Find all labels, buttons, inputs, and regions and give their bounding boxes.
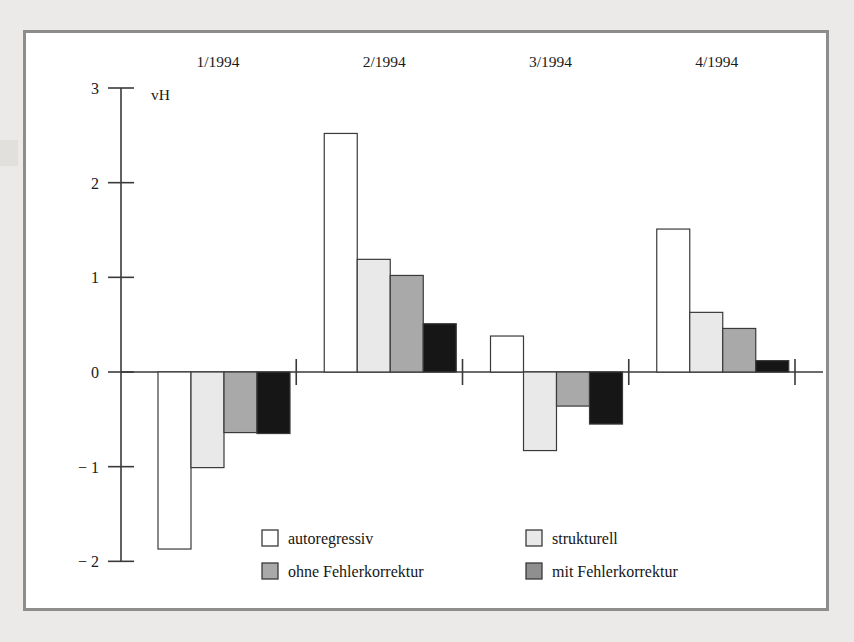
legend-label-4: mit Fehlerkorrektur xyxy=(552,563,678,580)
bar-4-1994-series3 xyxy=(723,328,756,372)
legend-swatch-autoregressiv xyxy=(262,530,278,546)
category-label-1: 1/1994 xyxy=(196,53,239,70)
bar-3-1994-series3 xyxy=(557,372,590,406)
bar-1-1994-series1 xyxy=(158,372,191,549)
legend-label-3: ohne Fehlerkorrektur xyxy=(288,563,424,580)
bar-1-1994-series2 xyxy=(191,372,224,468)
y-tick-label-3: 3 xyxy=(91,80,99,97)
y-tick-label-neg2: − 2 xyxy=(78,553,99,570)
scanned-page: 1/19942/19943/19944/19943210− 1− 2vHauto… xyxy=(0,0,854,642)
bar-2-1994-series2 xyxy=(357,259,390,372)
legend-swatch-ohne-fehlerkorrektur xyxy=(262,563,278,579)
bar-2-1994-series1 xyxy=(324,133,357,372)
legend-label-1: autoregressiv xyxy=(288,530,373,548)
bar-3-1994-series4 xyxy=(590,372,623,424)
chart-plot-area: 1/19942/19943/19944/19943210− 1− 2vHauto… xyxy=(26,33,826,608)
bar-4-1994-series4 xyxy=(756,361,789,372)
y-tick-label-1: 1 xyxy=(91,269,99,286)
bar-3-1994-series2 xyxy=(524,372,557,451)
legend-swatch-strukturell xyxy=(526,530,542,546)
bar-1-1994-series4 xyxy=(257,372,290,434)
category-label-3: 3/1994 xyxy=(529,53,572,70)
legend-swatch-mit-fehlerkorrektur xyxy=(526,563,542,579)
bar-4-1994-series2 xyxy=(690,312,723,372)
category-label-2: 2/1994 xyxy=(363,53,406,70)
bar-2-1994-series4 xyxy=(423,324,456,372)
bar-2-1994-series3 xyxy=(390,275,423,372)
y-tick-label-2: 2 xyxy=(91,175,99,192)
bar-4-1994-series1 xyxy=(657,229,690,372)
bar-chart: 1/19942/19943/19944/19943210− 1− 2vHauto… xyxy=(26,33,826,608)
category-label-4: 4/1994 xyxy=(695,53,738,70)
y-tick-label-neg1: − 1 xyxy=(78,459,99,476)
bar-3-1994-series1 xyxy=(491,336,524,372)
figure-frame: 1/19942/19943/19944/19943210− 1− 2vHauto… xyxy=(23,30,829,611)
y-axis-unit-label: vH xyxy=(151,86,170,103)
y-tick-label-0: 0 xyxy=(91,364,99,381)
bar-1-1994-series3 xyxy=(224,372,257,433)
legend-label-2: strukturell xyxy=(552,530,618,547)
